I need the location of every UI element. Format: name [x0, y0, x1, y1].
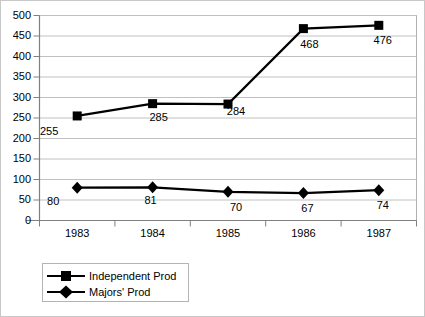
y-axis-tick-label: 500	[1, 10, 31, 21]
x-axis-ticks	[40, 221, 417, 227]
data-point-label: 468	[292, 39, 326, 50]
legend-label-majors-prod: Majors' Prod	[89, 286, 150, 298]
legend-label-independent-prod: Independent Prod	[89, 270, 176, 282]
y-axis-tick-label: 350	[1, 71, 31, 82]
y-axis-tick-label: 50	[1, 194, 31, 205]
data-point-label: 285	[142, 112, 176, 123]
y-axis-tick-label: 200	[1, 133, 31, 144]
chart-legend: Independent Prod Majors' Prod	[42, 263, 189, 302]
y-axis-tick-label: 150	[1, 153, 31, 164]
data-point-label: 70	[219, 202, 253, 213]
y-axis-tick-label: 0	[1, 215, 31, 226]
legend-item-independent-prod[interactable]: Independent Prod	[43, 267, 190, 284]
data-point-label: 255	[32, 126, 66, 137]
y-axis-tick-label: 250	[1, 112, 31, 123]
x-axis-tick-label: 1984	[118, 228, 188, 239]
y-axis-tick-label: 400	[1, 51, 31, 62]
x-axis-tick-label: 1986	[268, 228, 338, 239]
data-point-label: 476	[366, 35, 400, 46]
line-chart: 050100150200250300350400450500 198319841…	[0, 0, 425, 317]
data-point-label: 67	[290, 203, 324, 214]
square-marker-icon	[43, 268, 89, 284]
data-point-label: 81	[134, 195, 168, 206]
y-axis-ticks	[34, 16, 40, 221]
data-point-label: 74	[366, 200, 400, 211]
x-axis-tick-label: 1985	[193, 228, 263, 239]
x-axis-tick-label: 1983	[42, 228, 112, 239]
y-axis-tick-label: 300	[1, 92, 31, 103]
x-axis-tick-label: 1987	[344, 228, 414, 239]
data-point-label: 284	[219, 106, 253, 117]
legend-item-majors-prod[interactable]: Majors' Prod	[43, 283, 190, 300]
y-axis-tick-label: 100	[1, 174, 31, 185]
data-point-label: 80	[36, 196, 70, 207]
y-axis-tick-label: 450	[1, 30, 31, 41]
diamond-marker-icon	[43, 284, 89, 300]
